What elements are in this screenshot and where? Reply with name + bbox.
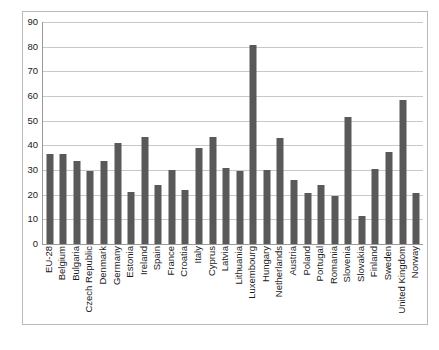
x-axis-tick-label: France <box>166 246 176 276</box>
x-axis-tick-slot: United Kingdom <box>395 246 409 324</box>
x-axis-tick-slot: France <box>164 246 178 324</box>
bar-slot <box>328 22 342 244</box>
x-axis-tick-slot: Czech Republic <box>83 246 97 324</box>
bar <box>413 193 420 244</box>
bar <box>223 168 230 244</box>
bar-slot <box>138 22 152 244</box>
x-axis-tick-slot: Slovenia <box>341 246 355 324</box>
bar <box>250 45 257 244</box>
bar <box>318 185 325 244</box>
bar-slot <box>97 22 111 244</box>
bar <box>128 192 135 244</box>
x-axis-tick-label: Romania <box>329 246 339 284</box>
bar <box>291 180 298 244</box>
bar-slot <box>179 22 193 244</box>
y-axis-tick-label: 40 <box>0 141 38 151</box>
x-axis-tick-label: Austria <box>288 246 298 276</box>
bar-slot <box>192 22 206 244</box>
x-axis-tick-slot: Luxembourg <box>246 246 260 324</box>
y-axis-tick-label: 20 <box>0 190 38 200</box>
y-axis-tick-label: 0 <box>0 239 38 249</box>
bar <box>277 138 284 244</box>
x-axis-tick-slot: Bulgaria <box>69 246 83 324</box>
x-axis-tick-label: Lithuania <box>234 246 244 285</box>
x-axis-tick-slot: Lithuania <box>232 246 246 324</box>
x-axis-tick-slot: Austria <box>286 246 300 324</box>
bar-slot <box>219 22 233 244</box>
x-axis-tick-slot: EU-28 <box>42 246 56 324</box>
y-axis-tick-label: 50 <box>0 116 38 126</box>
x-axis-tick-label: Netherlands <box>275 246 285 297</box>
x-axis-tick-label: Bulgaria <box>71 246 81 281</box>
bar <box>141 137 148 244</box>
x-axis-tick-label: Czech Republic <box>85 246 95 313</box>
y-axis-tick-label: 90 <box>0 17 38 27</box>
x-axis-tick-slot: Romania <box>327 246 341 324</box>
x-axis-tick-slot: Germany <box>110 246 124 324</box>
bar-slot <box>233 22 247 244</box>
x-axis-tick-slot: Portugal <box>313 246 327 324</box>
x-axis-tick-slot: Italy <box>191 246 205 324</box>
bar <box>331 196 338 244</box>
bar-slot <box>43 22 57 244</box>
x-axis-tick-label: Poland <box>302 246 312 276</box>
bar-slot <box>84 22 98 244</box>
x-axis-tick-slot: Norway <box>408 246 422 324</box>
x-axis-tick-slot: Ireland <box>137 246 151 324</box>
bar-slot <box>247 22 261 244</box>
x-axis-tick-label: Estonia <box>125 246 135 278</box>
x-axis-tick-slot: Sweden <box>381 246 395 324</box>
bar-slot <box>369 22 383 244</box>
bar <box>358 216 365 244</box>
x-axis-tick-label: Slovenia <box>343 246 353 282</box>
x-axis-tick-label: Ireland <box>139 246 149 275</box>
y-axis: 0102030405060708090 <box>0 22 38 245</box>
bar-series <box>43 22 423 244</box>
y-axis-tick-label: 80 <box>0 42 38 52</box>
x-axis-tick-label: Germany <box>112 246 122 285</box>
bar <box>236 171 243 245</box>
x-axis-tick-label: Latvia <box>220 246 230 271</box>
bar <box>263 170 270 244</box>
x-axis-tick-slot: Slovakia <box>354 246 368 324</box>
bar-slot <box>111 22 125 244</box>
x-axis-tick-label: Luxembourg <box>248 246 258 299</box>
bar <box>60 154 67 244</box>
x-axis-tick-slot: Croatia <box>178 246 192 324</box>
x-axis-tick-slot: Belgium <box>56 246 70 324</box>
bar <box>87 171 94 244</box>
x-axis-tick-label: Spain <box>153 246 163 270</box>
x-axis-tick-label: Cyprus <box>207 246 217 276</box>
x-axis-tick-label: United Kingdom <box>397 246 407 314</box>
bar-slot <box>314 22 328 244</box>
bar <box>182 190 189 244</box>
x-axis-tick-slot: Estonia <box>123 246 137 324</box>
bar-slot <box>355 22 369 244</box>
bar-slot <box>70 22 84 244</box>
bar-slot <box>301 22 315 244</box>
x-axis-tick-label: Slovakia <box>356 246 366 282</box>
y-axis-tick-label: 70 <box>0 67 38 77</box>
bar-slot <box>409 22 423 244</box>
x-axis-tick-label: Portugal <box>315 246 325 281</box>
bar <box>168 170 175 244</box>
x-axis-tick-slot: Poland <box>300 246 314 324</box>
bar <box>155 185 162 244</box>
plot-area <box>42 22 423 245</box>
x-axis-tick-label: Finland <box>370 246 380 277</box>
x-axis-tick-slot: Cyprus <box>205 246 219 324</box>
bar-slot <box>206 22 220 244</box>
bar-slot <box>152 22 166 244</box>
x-axis-tick-label: EU-28 <box>44 246 54 273</box>
x-axis: EU-28BelgiumBulgariaCzech RepublicDenmar… <box>42 246 423 324</box>
x-axis-tick-label: Denmark <box>98 246 108 285</box>
bar-slot <box>382 22 396 244</box>
bar <box>196 148 203 244</box>
x-axis-tick-slot: Finland <box>368 246 382 324</box>
bar <box>114 143 121 244</box>
x-axis-tick-label: Norway <box>410 246 420 278</box>
x-axis-tick-label: Hungary <box>261 246 271 282</box>
bar <box>304 193 311 244</box>
x-axis-tick-slot: Latvia <box>218 246 232 324</box>
y-axis-tick-label: 30 <box>0 165 38 175</box>
